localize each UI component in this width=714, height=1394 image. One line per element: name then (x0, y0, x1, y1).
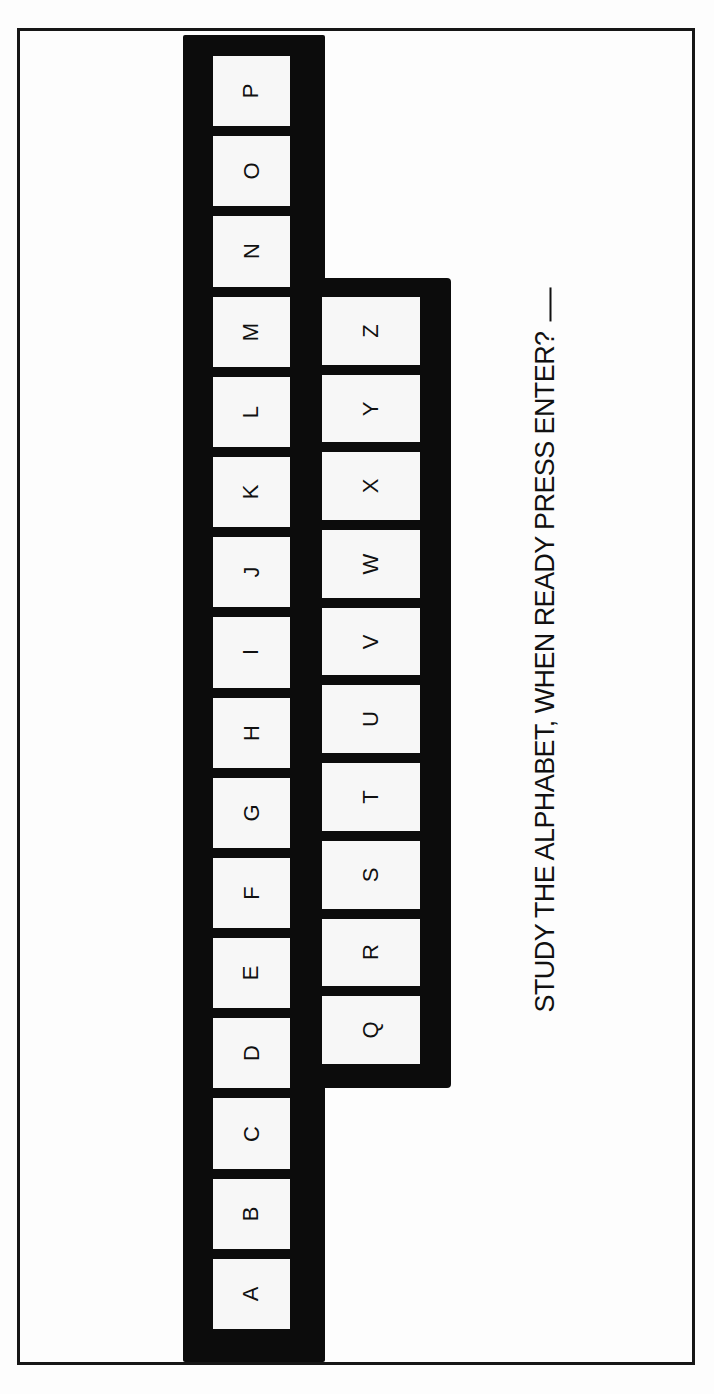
key-label: D (240, 1045, 262, 1061)
key-label: A (241, 1287, 263, 1302)
key-list-top: P O N M L K J I H G F E D C B A (213, 56, 290, 1329)
text-cursor[interactable] (550, 288, 552, 322)
key-x[interactable]: X (322, 452, 420, 520)
key-label: O (241, 163, 263, 180)
key-label: G (241, 804, 263, 821)
key-a[interactable]: A (213, 1259, 290, 1329)
key-h[interactable]: H (213, 698, 290, 768)
key-k[interactable]: K (213, 457, 290, 527)
key-label: S (360, 867, 382, 882)
key-label: N (240, 244, 262, 260)
key-label: C (240, 1126, 262, 1142)
key-label: X (360, 479, 382, 494)
key-label: I (241, 649, 263, 655)
key-s[interactable]: S (322, 841, 420, 909)
key-label: E (241, 966, 263, 981)
key-label: H (240, 725, 262, 741)
key-label: T (360, 790, 382, 803)
key-label: Y (360, 401, 382, 416)
key-d[interactable]: D (213, 1018, 290, 1088)
key-label: J (241, 567, 263, 578)
keyboard-row-a-to-p: P O N M L K J I H G F E D C B A (183, 35, 325, 1362)
key-i[interactable]: I (213, 617, 290, 687)
key-label: U (360, 711, 382, 727)
key-u[interactable]: U (322, 685, 420, 753)
key-g[interactable]: G (213, 778, 290, 848)
key-l[interactable]: L (213, 377, 290, 447)
key-list-bottom: Z Y X W V U T S R Q (322, 297, 420, 1064)
key-y[interactable]: Y (322, 375, 420, 443)
key-q[interactable]: Q (322, 996, 420, 1064)
key-label: F (240, 886, 262, 899)
key-p[interactable]: P (213, 56, 290, 126)
key-t[interactable]: T (322, 763, 420, 831)
key-b[interactable]: B (213, 1179, 290, 1249)
key-n[interactable]: N (213, 216, 290, 286)
key-label: W (360, 554, 382, 575)
keyboard-row-q-to-z: Z Y X W V U T S R Q (320, 278, 451, 1088)
key-label: V (360, 634, 382, 649)
prompt-text: STUDY THE ALPHABET, WHEN READY PRESS ENT… (530, 332, 561, 1013)
key-label: K (241, 485, 263, 500)
key-o[interactable]: O (213, 136, 290, 206)
key-m[interactable]: M (213, 297, 290, 367)
key-f[interactable]: F (213, 858, 290, 928)
key-label: M (240, 322, 262, 340)
key-e[interactable]: E (213, 938, 290, 1008)
key-label: Z (360, 324, 382, 337)
key-r[interactable]: R (322, 919, 420, 987)
key-label: L (241, 406, 263, 418)
key-j[interactable]: J (213, 537, 290, 607)
key-label: Q (360, 1021, 382, 1038)
key-label: B (241, 1206, 263, 1221)
key-v[interactable]: V (322, 608, 420, 676)
key-z[interactable]: Z (322, 297, 420, 365)
key-w[interactable]: W (322, 530, 420, 598)
key-label: R (360, 944, 382, 960)
key-label: P (241, 84, 263, 99)
key-c[interactable]: C (213, 1098, 290, 1168)
